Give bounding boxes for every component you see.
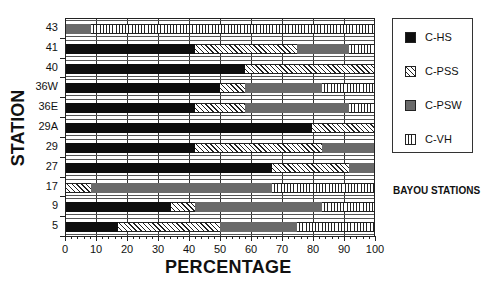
x-minor-tick bbox=[288, 236, 289, 239]
bar-row-36w bbox=[66, 78, 374, 98]
bar-row-40 bbox=[66, 59, 374, 79]
legend-label: C-PSW bbox=[425, 99, 462, 111]
legend-label: C-PSS bbox=[425, 65, 459, 77]
x-minor-tick bbox=[77, 236, 78, 239]
x-minor-tick bbox=[208, 236, 209, 239]
y-tick bbox=[60, 157, 65, 158]
legend-item-c-vh: C-VH bbox=[405, 133, 452, 145]
x-minor-tick bbox=[108, 236, 109, 239]
x-minor-tick bbox=[201, 236, 202, 239]
y-tick-label: 43 bbox=[18, 21, 58, 33]
x-minor-tick bbox=[338, 236, 339, 239]
x-tick-label: 60 bbox=[236, 243, 266, 255]
bar-segment-c-hs bbox=[66, 123, 312, 133]
bar-row-17 bbox=[66, 178, 374, 198]
x-minor-tick bbox=[325, 236, 326, 239]
y-tick-label: 5 bbox=[18, 219, 58, 231]
bar-segment-c-pss bbox=[195, 103, 244, 113]
legend-item-c-pss: C-PSS bbox=[405, 65, 459, 77]
stacked-bar bbox=[66, 64, 374, 74]
y-tick-label: 27 bbox=[18, 160, 58, 172]
x-minor-tick bbox=[177, 236, 178, 239]
x-minor-tick bbox=[115, 236, 116, 239]
bar-segment-c-vh bbox=[349, 44, 374, 54]
bar-segment-c-psw bbox=[91, 183, 273, 193]
legend-item-c-psw: C-PSW bbox=[405, 99, 462, 111]
bar-segment-c-psw bbox=[245, 103, 350, 113]
bar-segment-c-hs bbox=[66, 103, 195, 113]
horizontal-gridline bbox=[66, 175, 374, 176]
bar-segment-c-vh bbox=[91, 24, 374, 34]
stacked-bar bbox=[66, 123, 374, 133]
x-minor-tick bbox=[307, 236, 308, 239]
bar-segment-c-psw bbox=[66, 24, 91, 34]
x-minor-tick bbox=[301, 236, 302, 239]
x-tick-label: 90 bbox=[329, 243, 359, 255]
bar-segment-c-pss bbox=[171, 202, 196, 212]
bar-segment-c-pss bbox=[245, 64, 374, 74]
x-tick-label: 50 bbox=[205, 243, 235, 255]
stacked-bar bbox=[66, 103, 374, 113]
bar-segment-c-pss bbox=[220, 83, 245, 93]
stacked-bar bbox=[66, 143, 374, 153]
x-minor-tick bbox=[152, 236, 153, 239]
x-minor-tick bbox=[121, 236, 122, 239]
bar-segment-c-hs bbox=[66, 44, 195, 54]
horizontal-gridline bbox=[66, 155, 374, 156]
x-tick-label: 100 bbox=[360, 243, 390, 255]
x-tick-label: 0 bbox=[50, 243, 80, 255]
x-minor-tick bbox=[183, 236, 184, 239]
x-tick-label: 10 bbox=[81, 243, 111, 255]
bar-segment-c-psw bbox=[322, 143, 374, 153]
x-tick-label: 30 bbox=[143, 243, 173, 255]
horizontal-gridline bbox=[66, 115, 374, 116]
x-minor-tick bbox=[84, 236, 85, 239]
x-minor-tick bbox=[90, 236, 91, 239]
bar-row-29a bbox=[66, 118, 374, 138]
horizontal-gridline bbox=[66, 159, 374, 160]
x-minor-tick bbox=[195, 236, 196, 239]
bayou-stations-annotation: BAYOU STATIONS bbox=[393, 185, 480, 196]
y-tick-label: 41 bbox=[18, 41, 58, 53]
x-minor-tick bbox=[164, 236, 165, 239]
bar-segment-c-hs bbox=[66, 202, 171, 212]
x-minor-tick bbox=[232, 236, 233, 239]
bar-segment-c-vh bbox=[272, 183, 374, 193]
horizontal-gridline bbox=[66, 20, 374, 21]
horizontal-gridline bbox=[66, 195, 374, 196]
x-tick-label: 40 bbox=[174, 243, 204, 255]
x-minor-tick bbox=[226, 236, 227, 239]
x-tick bbox=[158, 236, 159, 241]
x-minor-tick bbox=[139, 236, 140, 239]
y-tick-label: 29A bbox=[18, 120, 58, 132]
x-axis-title: PERCENTAGE bbox=[165, 257, 292, 278]
legend-item-c-hs: C-HS bbox=[405, 31, 452, 43]
x-tick-label: 20 bbox=[112, 243, 142, 255]
x-tick bbox=[189, 236, 190, 241]
x-minor-tick bbox=[245, 236, 246, 239]
bar-segment-c-pss bbox=[118, 222, 220, 232]
legend: C-HSC-PSSC-PSWC-VH bbox=[392, 18, 473, 153]
legend-label: C-HS bbox=[425, 31, 452, 43]
legend-label: C-VH bbox=[425, 133, 452, 145]
x-tick bbox=[65, 236, 66, 241]
x-minor-tick bbox=[356, 236, 357, 239]
bar-segment-c-pss bbox=[66, 183, 91, 193]
x-minor-tick bbox=[294, 236, 295, 239]
x-minor-tick bbox=[332, 236, 333, 239]
x-minor-tick bbox=[369, 236, 370, 239]
y-tick-label: 29 bbox=[18, 140, 58, 152]
x-minor-tick bbox=[319, 236, 320, 239]
x-minor-tick bbox=[71, 236, 72, 239]
y-tick bbox=[60, 58, 65, 59]
horizontal-gridline bbox=[66, 95, 374, 96]
stacked-bar bbox=[66, 183, 374, 193]
bar-segment-c-hs bbox=[66, 163, 272, 173]
bar-segment-c-pss bbox=[272, 163, 349, 173]
horizontal-gridline bbox=[66, 60, 374, 61]
horizontal-gridline bbox=[66, 218, 374, 219]
bar-segment-c-psw bbox=[195, 202, 321, 212]
x-minor-tick bbox=[214, 236, 215, 239]
bar-segment-c-psw bbox=[349, 163, 374, 173]
stacked-bar bbox=[66, 83, 374, 93]
